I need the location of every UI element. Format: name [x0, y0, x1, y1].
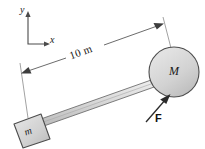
dimension-left-arrowhead-icon — [21, 67, 32, 74]
axes-polyline — [28, 14, 47, 44]
rod-highlight-line — [40, 82, 156, 123]
physics-diagram-figure: y x 10 m M m F — [0, 0, 205, 149]
force-label: F — [155, 113, 162, 124]
y-axis-label: y — [20, 5, 24, 15]
connecting-rod-group — [38, 79, 157, 127]
mass-M-label: M — [169, 65, 179, 77]
dimension-line-left-segment — [25, 58, 66, 72]
y-axis-arrowhead-icon — [25, 11, 30, 17]
coordinate-axes-group — [25, 11, 50, 47]
dimension-line-right-segment — [104, 25, 160, 45]
x-axis-label: x — [50, 35, 54, 45]
